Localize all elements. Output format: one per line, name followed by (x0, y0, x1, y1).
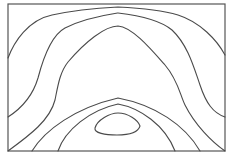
contour-lines (8, 7, 225, 151)
contour-line-f (95, 113, 140, 135)
contour-line-a (8, 7, 225, 58)
contour-line-d (32, 98, 200, 151)
contour-line-c (8, 26, 225, 151)
contour-diagram (0, 0, 232, 157)
contour-line-b (8, 13, 225, 117)
